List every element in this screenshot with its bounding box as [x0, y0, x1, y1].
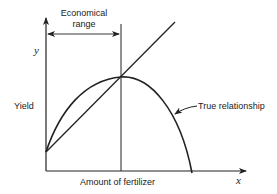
y-axis-label: y [33, 44, 39, 56]
true-relationship-curve [46, 77, 192, 173]
economical-range-label: Economical [61, 8, 108, 18]
true-relationship-label: True relationship [198, 101, 265, 111]
economical-range-label-2: range [72, 19, 95, 29]
linear-approximation-line [46, 22, 175, 152]
fertilizer-yield-diagram: Economical range y Yield Amount of ferti… [0, 0, 277, 194]
x-axis-label: x [235, 174, 241, 186]
yield-label: Yield [14, 101, 34, 111]
true-relationship-leader [175, 106, 197, 114]
x-axis-title: Amount of fertilizer [80, 177, 155, 187]
